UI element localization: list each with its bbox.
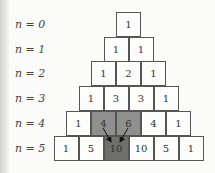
- cell-r5-c0: 1: [54, 136, 79, 161]
- cell-r3-c1: 3: [104, 86, 129, 111]
- cell-r2-c0: 1: [91, 61, 116, 86]
- row-label-n1: n = 1: [15, 37, 55, 62]
- row-label-n3: n = 3: [15, 86, 55, 111]
- cell-r3-c0: 1: [79, 86, 104, 111]
- cell-r3-c3: 1: [154, 86, 179, 111]
- row-label-n4: n = 4: [15, 111, 55, 136]
- cell-r5-c3: 10: [129, 136, 154, 161]
- cell-r4-c2: 6: [116, 111, 141, 136]
- cell-r2-c1: 2: [116, 61, 141, 86]
- cell-r1-c0: 1: [104, 37, 129, 62]
- row-label-n0: n = 0: [15, 12, 55, 37]
- cell-r4-c1: 4: [91, 111, 116, 136]
- page-edge-shadow: [0, 0, 9, 173]
- cell-r5-c2: 10: [104, 136, 129, 161]
- cell-r3-c2: 3: [129, 86, 154, 111]
- row-label-n5: n = 5: [15, 136, 55, 161]
- cell-r4-c0: 1: [66, 111, 91, 136]
- cell-r5-c5: 1: [179, 136, 204, 161]
- row-label-n2: n = 2: [15, 61, 55, 86]
- cell-r4-c3: 4: [141, 111, 166, 136]
- cell-r5-c4: 5: [154, 136, 179, 161]
- cell-r2-c2: 1: [141, 61, 166, 86]
- cell-r4-c4: 1: [166, 111, 191, 136]
- cell-r1-c1: 1: [129, 37, 154, 62]
- cell-r5-c1: 5: [79, 136, 104, 161]
- cell-r0-c0: 1: [116, 12, 141, 37]
